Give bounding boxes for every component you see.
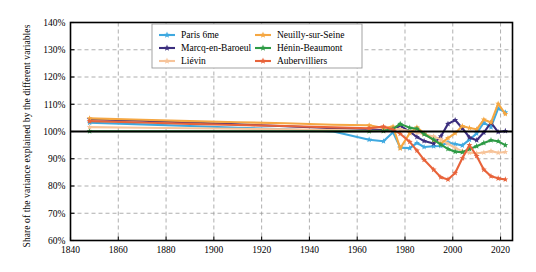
legend-item-label: Liévin [181,56,206,66]
legend-item-label: Marcq-en-Baroeul [181,43,252,53]
y-tick-label: 90% [48,154,66,164]
data-point-marker [467,125,473,131]
x-tick-label: 1900 [204,245,223,255]
x-tick-label: 1920 [252,245,271,255]
chart-legend: Paris 6meNeuilly-sur-SeineMarcq-en-Baroe… [152,24,362,68]
x-tick-label: 1880 [157,245,176,255]
legend-item-label: Hénin-Beaumont [277,43,343,53]
x-tick-label: 2020 [491,245,510,255]
y-tick-label: 140% [43,18,65,28]
legend-item-label: Neuilly-sur-Seine [277,30,344,40]
data-point-marker [488,148,494,154]
y-tick-label: 110% [44,100,66,110]
data-point-marker [481,149,487,155]
y-tick-label: 80% [48,181,66,191]
y-tick-label: 120% [43,72,65,82]
x-tick-label: 1960 [348,245,367,255]
x-tick-label: 2000 [443,245,462,255]
y-tick-label: 70% [48,209,66,219]
x-tick-label: 1840 [61,245,80,255]
data-point-marker [502,176,508,182]
x-tick-label: 1940 [300,245,319,255]
legend-item-label: Aubervilliers [277,56,327,66]
data-point-marker [502,149,508,155]
data-point-marker [366,137,372,143]
y-tick-label: 130% [43,45,65,55]
y-tick-label: 100% [43,127,65,137]
chart-figure: Share of the variance explained by the d… [0,0,536,272]
x-tick-label: 1860 [109,245,128,255]
x-tick-label: 1980 [395,245,414,255]
legend-item-label: Paris 6me [181,30,219,40]
chart-plot-area: 60%70%80%90%100%110%120%130%140%18401860… [0,0,536,272]
